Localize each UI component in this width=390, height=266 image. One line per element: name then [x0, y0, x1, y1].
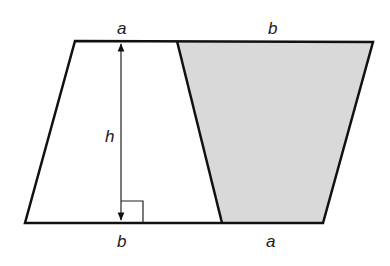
- trapezoid-diagram: a b h b a: [0, 0, 390, 266]
- shaded-trapezoid: [177, 41, 373, 223]
- label-height: h: [105, 127, 114, 146]
- right-angle-marker: [121, 201, 143, 223]
- label-top-right: b: [268, 19, 277, 38]
- label-bottom-left: b: [117, 232, 126, 251]
- label-top-left: a: [117, 19, 126, 38]
- label-bottom-right: a: [266, 232, 275, 251]
